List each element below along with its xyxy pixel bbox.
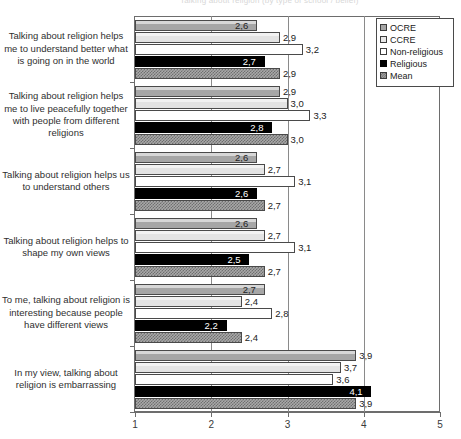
bar-value-label: 2,5	[227, 254, 240, 265]
bar-religious[interactable]	[135, 386, 371, 397]
legend-swatch-ccre-icon	[380, 36, 387, 43]
legend-label-ccre: CCRE	[390, 35, 416, 45]
bar-mean[interactable]	[135, 332, 242, 343]
bar-value-label: 2,7	[268, 230, 281, 241]
bar-value-label: 2,2	[205, 320, 218, 331]
bar-ocre[interactable]	[135, 86, 280, 97]
bar-value-label: 2,9	[283, 86, 296, 97]
category-label: To me, talking about religion is interes…	[2, 282, 130, 345]
bar-value-label: 3,3	[313, 110, 326, 121]
category-label: In my view, talking about religion is em…	[2, 348, 130, 411]
bar-value-label: 2,7	[268, 200, 281, 211]
bar-value-label: 2,4	[245, 332, 258, 343]
bar-non-religious[interactable]	[135, 242, 295, 253]
bar-value-label: 2,6	[235, 188, 248, 199]
bar-value-label: 3,0	[291, 98, 304, 109]
bar-value-label: 3,9	[359, 398, 372, 409]
legend-label-non-religious: Non-religious	[390, 47, 443, 57]
bar-non-religious[interactable]	[135, 374, 333, 385]
x-axis-tick-label: 3	[278, 419, 298, 430]
legend-label-mean: Mean	[390, 71, 413, 81]
legend-item-ccre[interactable]: CCRE	[380, 34, 450, 45]
bar-mean[interactable]	[135, 266, 265, 277]
bar-value-label: 2,9	[283, 32, 296, 43]
bar-value-label: 2,6	[235, 218, 248, 229]
bar-value-label: 2,8	[275, 308, 288, 319]
x-axis-tick-label: 4	[354, 419, 374, 430]
bar-value-label: 2,6	[235, 20, 248, 31]
bar-value-label: 2,7	[243, 56, 256, 67]
bar-value-label: 3,1	[298, 242, 311, 253]
bar-ccre[interactable]	[135, 32, 280, 43]
bar-value-label: 2,7	[243, 284, 256, 295]
bar-ccre[interactable]	[135, 296, 242, 307]
category-axis-tick	[130, 346, 135, 347]
category-label: Talking about religion helps me to live …	[2, 84, 130, 147]
bar-value-label: 3,6	[336, 374, 349, 385]
bar-value-label: 2,7	[268, 164, 281, 175]
legend-item-ocre[interactable]: OCRE	[380, 22, 450, 33]
bar-value-label: 2,9	[283, 68, 296, 79]
bar-mean[interactable]	[135, 68, 280, 79]
legend-label-ocre: OCRE	[390, 23, 416, 33]
legend-swatch-mean-icon	[380, 72, 387, 79]
chart-title: Talking about religion (by type of schoo…	[180, 0, 455, 6]
bar-ccre[interactable]	[135, 230, 265, 241]
legend-item-religious[interactable]: Religious	[380, 58, 450, 69]
legend-label-religious: Religious	[390, 59, 427, 69]
x-axis-tick-label: 2	[201, 419, 221, 430]
bar-non-religious[interactable]	[135, 44, 303, 55]
bar-non-religious[interactable]	[135, 110, 310, 121]
x-axis-tick-label: 1	[125, 419, 145, 430]
bar-value-label: 2,4	[245, 296, 258, 307]
bar-ccre[interactable]	[135, 164, 265, 175]
bar-ccre[interactable]	[135, 362, 341, 373]
category-axis-tick	[130, 280, 135, 281]
bar-ccre[interactable]	[135, 98, 288, 109]
bar-value-label: 2,8	[250, 122, 263, 133]
bar-value-label: 3,9	[359, 350, 372, 361]
bar-non-religious[interactable]	[135, 176, 295, 187]
bar-mean[interactable]	[135, 134, 288, 145]
legend-swatch-non-religious-icon	[380, 48, 387, 55]
bar-value-label: 3,1	[298, 176, 311, 187]
category-label: Talking about religion helps us to under…	[2, 150, 130, 213]
bar-value-label: 3,2	[306, 44, 319, 55]
bar-value-label: 3,7	[344, 362, 357, 373]
bar-ocre[interactable]	[135, 350, 356, 361]
bar-mean[interactable]	[135, 200, 265, 211]
legend-item-non-religious[interactable]: Non-religious	[380, 46, 450, 57]
legend-swatch-ocre-icon	[380, 24, 387, 31]
bar-non-religious[interactable]	[135, 308, 272, 319]
category-axis-tick	[130, 214, 135, 215]
category-label: Talking about religion helps me to under…	[2, 18, 130, 81]
x-axis-tick-label: 5	[430, 419, 450, 430]
chart-legend: OCRE CCRE Non-religious Religious Mean	[376, 18, 454, 87]
x-axis-line	[134, 412, 441, 413]
bar-value-label: 2,6	[235, 152, 248, 163]
bar-value-label: 2,7	[268, 266, 281, 277]
category-axis-tick	[130, 148, 135, 149]
legend-swatch-religious-icon	[380, 60, 387, 67]
category-axis-tick	[130, 82, 135, 83]
legend-item-mean[interactable]: Mean	[380, 70, 450, 81]
bar-mean[interactable]	[135, 398, 356, 409]
category-label: Talking about religion helps to shape my…	[2, 216, 130, 279]
bar-value-label: 4,1	[349, 386, 362, 397]
bar-value-label: 3,0	[291, 134, 304, 145]
